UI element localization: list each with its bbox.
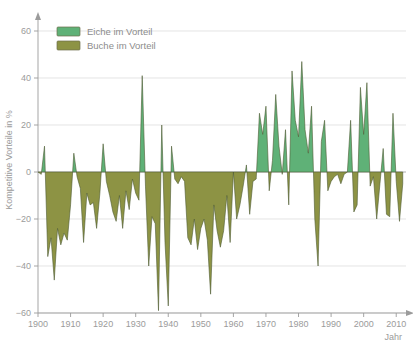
x-axis-tick-labels: 1900191019201930194019501960197019801990…	[28, 313, 406, 329]
x-tick-label: 1970	[256, 319, 276, 329]
x-tick-label: 1920	[93, 319, 113, 329]
y-tick-label: 0	[26, 167, 31, 177]
y-axis-title: Kompetitive Vorteile in %	[4, 110, 14, 210]
chart-container: 0204060−20−40−60 19001910192019301940195…	[0, 0, 413, 358]
x-tick-label: 1990	[321, 319, 341, 329]
x-axis-arrow	[406, 310, 413, 316]
x-tick-label: 2000	[354, 319, 374, 329]
series-area-paths	[38, 62, 403, 311]
area-buche-im-vorteil	[38, 172, 403, 311]
y-tick-label: 60	[21, 26, 31, 36]
legend: Eiche im Vorteil Buche im Vorteil	[57, 26, 156, 51]
legend-swatch-buche	[57, 41, 80, 50]
x-tick-label: 2010	[386, 319, 406, 329]
legend-label-eiche: Eiche im Vorteil	[87, 26, 152, 37]
legend-label-buche: Buche im Vorteil	[87, 40, 156, 51]
x-axis-title: Jahr	[384, 332, 402, 342]
x-tick-label: 1950	[191, 319, 211, 329]
y-axis-arrow	[35, 12, 41, 20]
x-tick-label: 1910	[61, 319, 81, 329]
x-tick-label: 1980	[289, 319, 309, 329]
y-tick-label: −20	[16, 214, 31, 224]
x-tick-label: 1900	[28, 319, 48, 329]
y-tick-label: −60	[16, 308, 31, 318]
axis-lines	[35, 12, 413, 316]
x-tick-label: 1930	[126, 319, 146, 329]
y-tick-label: 40	[21, 73, 31, 83]
x-tick-label: 1940	[158, 319, 178, 329]
y-tick-label: −40	[16, 261, 31, 271]
y-tick-label: 20	[21, 120, 31, 130]
x-tick-label: 1960	[223, 319, 243, 329]
y-axis-tick-labels: 0204060−20−40−60	[16, 26, 38, 318]
competitive-advantage-area-chart: 0204060−20−40−60 19001910192019301940195…	[0, 0, 413, 358]
legend-swatch-eiche	[57, 27, 80, 36]
